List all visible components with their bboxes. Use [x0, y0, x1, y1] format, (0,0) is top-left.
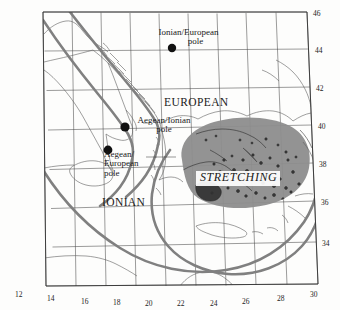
lat-tick-40: 40: [318, 122, 326, 131]
stretching-region-label: STRETCHING: [200, 171, 277, 184]
aegean-european-pole-line3: pole: [104, 168, 120, 178]
lon-tick-14: 14: [47, 294, 55, 303]
lon-tick-28: 28: [277, 294, 285, 303]
lat-tick-44: 44: [315, 46, 323, 55]
european-plate-text: EUROPEAN: [164, 96, 229, 108]
ionian-plate-label: IONIAN: [102, 196, 145, 208]
map-figure: Ionian/European pole EUROPEAN Aegean/Ion…: [0, 0, 340, 310]
lon-tick-18: 18: [113, 298, 121, 307]
lat-tick-34: 34: [322, 239, 330, 248]
lon-tick-16: 16: [81, 297, 89, 306]
aegean-european-pole-label: Aegean/ European pole: [104, 150, 148, 178]
lon-tick-12: 12: [15, 290, 23, 299]
lon-tick-22: 22: [177, 299, 185, 308]
lon-tick-20: 20: [145, 299, 153, 308]
lat-tick-36: 36: [321, 198, 329, 207]
stretching-region: [181, 118, 312, 209]
lat-tick-42: 42: [316, 84, 324, 93]
ionian-european-pole-line2: pole: [188, 37, 204, 46]
ionian-plate-text: IONIAN: [102, 196, 145, 208]
lon-tick-26: 26: [242, 297, 250, 306]
lon-tick-30: 30: [310, 290, 318, 299]
ionian-european-pole-label: Ionian/European pole: [151, 28, 226, 47]
aegean-ionian-pole-label: Aegean/Ionian pole: [128, 116, 200, 135]
aegean-ionian-pole-line2: pole: [156, 124, 172, 134]
lon-tick-24: 24: [210, 299, 218, 308]
european-plate-label: EUROPEAN: [164, 96, 229, 108]
lat-tick-46: 46: [313, 9, 321, 18]
lat-tick-38: 38: [319, 160, 327, 169]
stretching-text: STRETCHING: [200, 170, 277, 184]
